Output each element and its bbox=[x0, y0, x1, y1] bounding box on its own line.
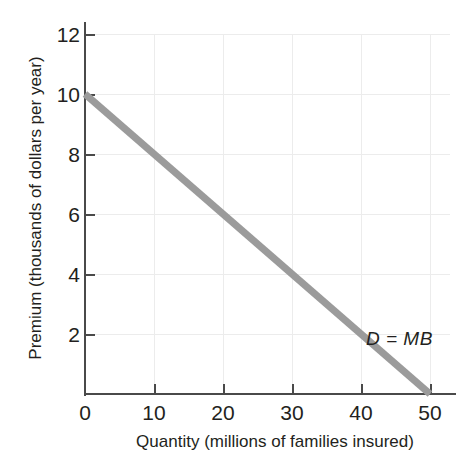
demand-curve-annotation: D = MB bbox=[366, 328, 433, 350]
y-axis-title: Premium (thousands of dollars per year) bbox=[26, 38, 46, 378]
x-tick-label-30: 30 bbox=[267, 402, 317, 423]
x-tick-20 bbox=[223, 384, 225, 393]
y-tick-label-8: 8 bbox=[46, 144, 80, 165]
gridline-vertical-40 bbox=[361, 34, 362, 394]
gridline-horizontal-6 bbox=[85, 214, 450, 215]
x-tick-30 bbox=[292, 384, 294, 393]
y-tick-4 bbox=[86, 274, 95, 276]
gridline-horizontal-4 bbox=[85, 274, 450, 275]
x-tick-label-40: 40 bbox=[336, 402, 386, 423]
y-tick-label-2: 2 bbox=[46, 324, 80, 345]
gridline-vertical-20 bbox=[223, 34, 224, 394]
y-tick-12 bbox=[86, 34, 95, 36]
gridline-vertical-10 bbox=[154, 34, 155, 394]
gridline-vertical-30 bbox=[292, 34, 293, 394]
x-axis-title: Quantity (millions of families insured) bbox=[85, 432, 465, 452]
x-tick-10 bbox=[154, 384, 156, 393]
x-axis-line bbox=[84, 393, 456, 395]
demand-curve-chart: 12 10 8 6 4 2 0 10 20 30 40 50 D = MB Pr… bbox=[0, 0, 476, 473]
gridline-horizontal-8 bbox=[85, 154, 450, 155]
y-axis-line bbox=[84, 22, 86, 396]
y-tick-8 bbox=[86, 154, 95, 156]
gridline-horizontal-12 bbox=[85, 34, 450, 35]
x-tick-40 bbox=[361, 384, 363, 393]
x-tick-label-50: 50 bbox=[405, 402, 455, 423]
y-tick-6 bbox=[86, 214, 95, 216]
x-tick-label-0: 0 bbox=[60, 402, 110, 423]
x-tick-label-10: 10 bbox=[129, 402, 179, 423]
y-tick-label-12: 12 bbox=[46, 24, 80, 45]
y-tick-label-4: 4 bbox=[46, 264, 80, 285]
x-tick-label-20: 20 bbox=[198, 402, 248, 423]
y-tick-label-6: 6 bbox=[46, 204, 80, 225]
y-tick-10 bbox=[86, 94, 95, 96]
gridline-horizontal-10 bbox=[85, 94, 450, 95]
x-tick-50 bbox=[430, 384, 432, 393]
y-tick-label-10: 10 bbox=[46, 84, 80, 105]
y-tick-2 bbox=[86, 334, 95, 336]
